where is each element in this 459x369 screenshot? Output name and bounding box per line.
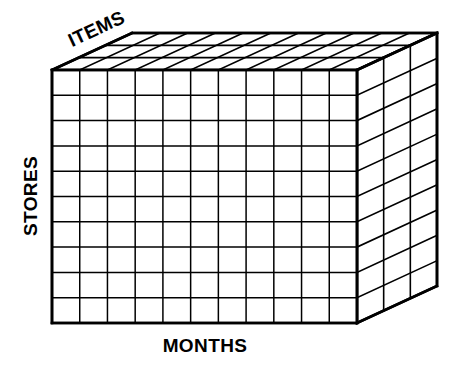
stores-axis-label: STORES: [20, 156, 41, 236]
months-axis-label: MONTHS: [163, 335, 248, 356]
data-cube-figure: MONTHS STORES ITEMS: [0, 0, 459, 369]
cube-faces: [52, 33, 437, 323]
cube-canvas: MONTHS STORES ITEMS: [0, 0, 459, 369]
